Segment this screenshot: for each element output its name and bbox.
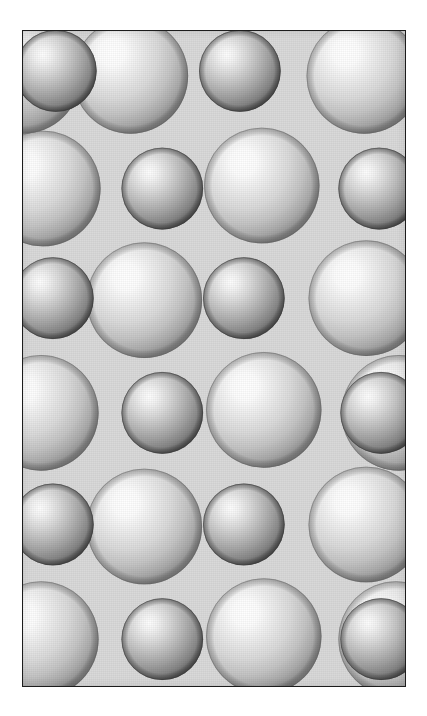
small-sphere [199, 31, 281, 112]
small-sphere [121, 148, 203, 230]
small-sphere [203, 484, 285, 566]
small-sphere [121, 372, 203, 454]
figure-frame [22, 30, 406, 687]
small-sphere [203, 257, 285, 339]
large-sphere [204, 128, 319, 244]
large-sphere [87, 469, 202, 585]
small-sphere [121, 598, 203, 680]
sphere-packing-diagram [23, 31, 405, 686]
large-sphere [206, 352, 321, 468]
page-root [0, 0, 427, 716]
large-sphere [87, 242, 202, 358]
